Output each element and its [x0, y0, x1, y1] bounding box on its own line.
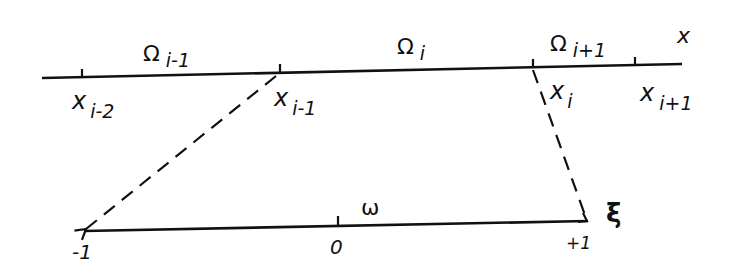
label-omega-i: Ωi — [397, 34, 426, 64]
label-x-i-1: xi-1 — [273, 84, 316, 119]
label-x-i+1: xi+1 — [639, 79, 693, 114]
label-omega-small: ω — [361, 195, 379, 220]
global-x-axis — [42, 64, 682, 78]
label-x-axis: x — [676, 23, 691, 48]
mapping-x-i-1-to-minus-1 — [86, 76, 276, 229]
label-xi-axis: ξ — [606, 198, 621, 228]
tick-label-0: 0 — [330, 235, 343, 259]
finite-element-mapping-diagram: Ωi-1 Ωi Ωi+1 x xi-2 xi-1 xi xi+1 ω ξ -1 … — [0, 0, 732, 278]
reference-xi-axis — [84, 221, 588, 231]
label-omega-i-1: Ωi-1 — [143, 41, 190, 71]
tick-label-plus-1: +1 — [566, 233, 591, 253]
tick-label-minus-1: -1 — [72, 240, 92, 264]
label-x-i: xi — [549, 77, 573, 112]
label-x-i-2: xi-2 — [71, 87, 114, 122]
label-omega-i+1: Ωi+1 — [550, 31, 606, 61]
